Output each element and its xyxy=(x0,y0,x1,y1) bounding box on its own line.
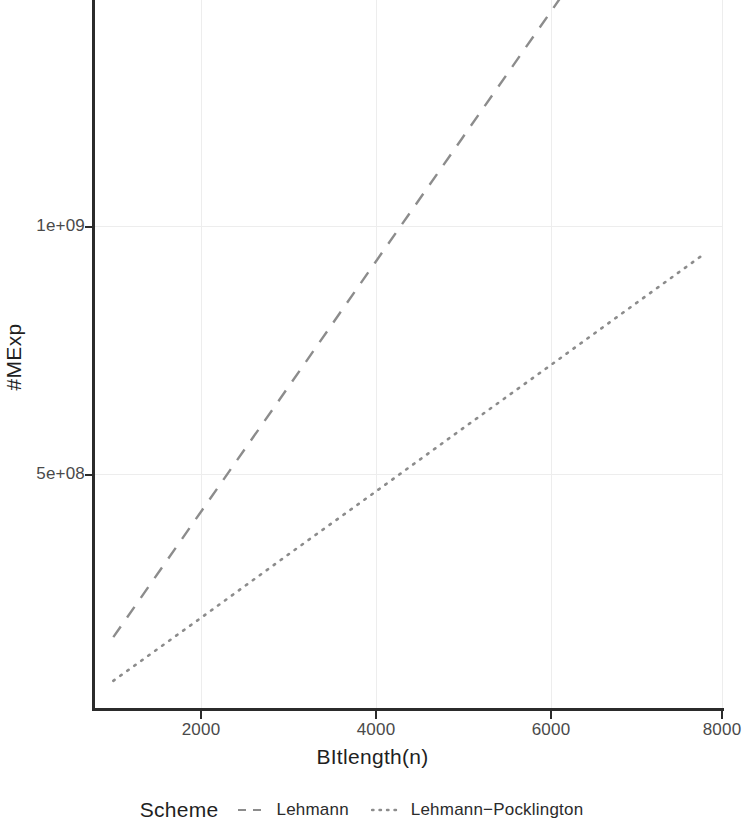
gridline-y-5e08 xyxy=(94,474,723,475)
dashed-line-icon xyxy=(237,803,267,817)
x-tick-2000 xyxy=(200,711,202,719)
x-axis-title: BItlength(n) xyxy=(0,745,745,769)
x-tick-6000 xyxy=(550,711,552,719)
y-tick-5e08 xyxy=(85,474,93,476)
x-tick-4000 xyxy=(375,711,377,719)
x-tick-8000 xyxy=(721,711,723,719)
legend: Scheme Lehmann Lehmann−Pocklington xyxy=(0,795,745,825)
x-ticklabel-8000: 8000 xyxy=(703,720,742,740)
gridline-x-8000 xyxy=(722,0,723,710)
legend-title: Scheme xyxy=(140,798,219,822)
x-ticklabel-4000: 4000 xyxy=(357,720,396,740)
y-axis-line xyxy=(92,0,95,711)
gridline-x-2000 xyxy=(201,0,202,710)
legend-item-lehmann-pocklington[interactable]: Lehmann−Pocklington xyxy=(371,800,584,820)
x-ticklabel-6000: 6000 xyxy=(532,720,571,740)
x-ticklabel-2000: 2000 xyxy=(182,720,221,740)
legend-label-lehmann-pocklington: Lehmann−Pocklington xyxy=(411,800,584,820)
y-axis-title: #MExp xyxy=(2,307,26,407)
chart-figure: 1e+09 5e+08 2000 4000 6000 8000 BItlengt… xyxy=(0,0,745,825)
legend-label-lehmann: Lehmann xyxy=(277,800,349,820)
y-ticklabel-1e09: 1e+09 xyxy=(36,216,85,236)
gridline-y-1e09 xyxy=(94,226,723,227)
gridline-x-6000 xyxy=(551,0,552,710)
dotted-line-icon xyxy=(371,803,401,817)
gridline-x-4000 xyxy=(376,0,377,710)
legend-item-lehmann[interactable]: Lehmann xyxy=(237,800,349,820)
y-ticklabel-5e08: 5e+08 xyxy=(36,464,85,484)
plot-panel xyxy=(94,0,723,710)
x-axis-line xyxy=(92,708,724,711)
y-tick-1e09 xyxy=(85,226,93,228)
